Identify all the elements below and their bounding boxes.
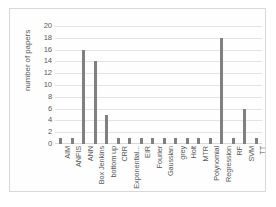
bar [105, 115, 108, 145]
x-axis-tick-label: ANN [87, 146, 95, 161]
gridline [55, 73, 262, 74]
gridline [55, 26, 262, 27]
x-axis-tick-label: CRR [121, 146, 129, 162]
bar [151, 138, 154, 144]
bar [71, 138, 74, 144]
x-axis-tick-labels: AIMANFISANNBox Jenkinsbottom upCRRExpone… [55, 146, 262, 200]
bar [59, 138, 62, 144]
gridline [55, 120, 262, 121]
plot-area [55, 26, 262, 144]
gridline [55, 38, 262, 39]
x-axis-tick-label: Regression [225, 146, 233, 182]
x-axis-tick-label: Gaussian [167, 146, 175, 176]
x-axis-tick-label: bottom up [110, 146, 118, 178]
y-axis-tick-label: 20 [36, 22, 52, 30]
y-axis-tick-label: 14 [36, 57, 52, 65]
bar [186, 138, 189, 144]
bar [209, 138, 212, 144]
x-axis-tick-label: Box Jenkins [98, 146, 106, 184]
x-axis-tick-label: AIM [64, 146, 72, 159]
y-axis-tick-label: 8 [36, 93, 52, 101]
y-axis-tick-label: 0 [36, 140, 52, 148]
x-axis-tick-label: EIR [144, 146, 152, 158]
x-axis-tick-label: RF [236, 146, 244, 156]
bar [232, 138, 235, 144]
x-axis-tick-label: SVM [248, 146, 256, 162]
bar [117, 138, 120, 144]
y-axis-tick-label: 6 [36, 105, 52, 113]
x-axis-tick-label: TT [259, 146, 267, 155]
gridline [55, 50, 262, 51]
y-axis-tick-label: 10 [36, 81, 52, 89]
bar [128, 138, 131, 144]
y-axis-tick-labels: 02468101214161820 [31, 26, 52, 144]
x-axis-tick-label: MTR [202, 146, 210, 162]
x-axis-tick-label: Fourier [156, 146, 164, 168]
gridline [55, 85, 262, 86]
gridline [55, 61, 262, 62]
bar [197, 138, 200, 144]
gridline [55, 109, 262, 110]
bar [94, 61, 97, 144]
bar [140, 138, 143, 144]
y-axis-tick-label: 16 [36, 46, 52, 54]
chart-figure: number of papers 02468101214161820 AIMAN… [0, 0, 276, 207]
figure-frame: number of papers 02468101214161820 AIMAN… [9, 8, 266, 192]
y-axis-tick-label: 4 [36, 116, 52, 124]
bar [163, 138, 166, 144]
y-axis-tick-label: 12 [36, 69, 52, 77]
y-axis-tick-label: 2 [36, 128, 52, 136]
x-axis-tick-label: ANFIS [75, 146, 83, 167]
bar [82, 50, 85, 144]
gridline [55, 132, 262, 133]
x-axis-tick-label: Exponential... [133, 146, 141, 189]
bar [220, 38, 223, 144]
gridline [55, 97, 262, 98]
bar [174, 138, 177, 144]
bar [243, 109, 246, 144]
x-axis-tick-label: Polynomial [213, 146, 221, 181]
x-axis-tick-label: grey [179, 146, 187, 160]
y-axis-tick-label: 18 [36, 34, 52, 42]
x-axis-tick-label: Holt [190, 146, 198, 159]
bar [255, 138, 258, 144]
